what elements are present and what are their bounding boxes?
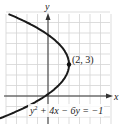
vertex-label: (2, 3) bbox=[72, 54, 94, 66]
parabola-graph: (2, 3) x y y2 + 4x − 6y = −1 bbox=[0, 0, 121, 126]
vertex-point bbox=[67, 62, 71, 66]
y-axis-arrow-icon bbox=[46, 13, 51, 20]
x-axis-label: x bbox=[113, 91, 119, 102]
equation-label: y2 + 4x − 6y = −1 bbox=[29, 105, 103, 116]
x-axis-arrow-icon bbox=[106, 94, 113, 99]
y-axis-label: y bbox=[44, 1, 50, 12]
